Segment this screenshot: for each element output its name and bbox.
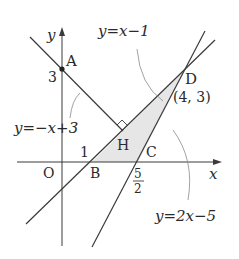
point-b-label: B [90,165,100,181]
leader-y-x-minus-1 [137,49,163,101]
y-axis-label: y [46,26,56,44]
tick-x-5-2-numerator: 5 [134,167,142,181]
x-axis-label: x [209,165,218,183]
point-c-label: C [146,144,157,160]
equation-label-y-neg-x-plus-3: y=−x+3 [13,119,78,137]
shaded-triangle-bcd [92,71,184,162]
point-h-label: H [117,137,129,153]
tick-x-1: 1 [80,144,89,160]
coordinate-diagram: y x O 3 1 5 2 A B C D (4, 3) H y=x−1 y=−… [0,0,239,259]
equation-label-y-x-minus-1: y=x−1 [97,22,150,40]
point-d-label: D [185,70,197,88]
leader-y-neg-x-plus-3 [70,93,80,118]
equation-label-y-2x-minus-5: y=2x−5 [154,207,216,225]
point-d-coords: (4, 3) [173,89,211,105]
leader-y-2x-minus-5 [173,130,190,200]
y-axis-arrow-icon [59,27,65,36]
tick-y-3: 3 [48,69,57,85]
point-a-label: A [65,52,77,70]
point-a-dot [59,66,64,71]
tick-x-5-2-denominator: 2 [134,182,142,196]
origin-label: O [43,165,54,181]
right-angle-marker-icon [117,120,128,126]
